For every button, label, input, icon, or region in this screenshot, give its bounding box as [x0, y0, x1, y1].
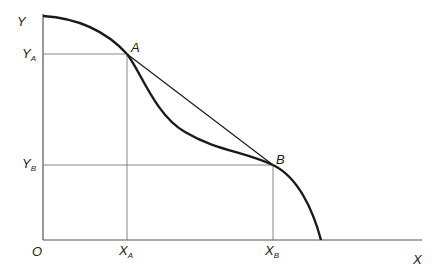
x-axis-label: X: [412, 252, 423, 267]
tick-y-a: YA: [22, 46, 36, 63]
tick-x-a-sub: A: [127, 251, 133, 260]
tick-x-b-sub: B: [274, 251, 280, 260]
origin-label: O: [32, 244, 42, 259]
tick-y-a-sub: A: [30, 54, 36, 63]
tick-y-b-sub: B: [31, 164, 37, 173]
curve-lower: [273, 165, 321, 240]
curve-upper: [43, 16, 127, 54]
tick-x-b: XB: [264, 243, 280, 260]
tick-y-b: YB: [22, 156, 37, 173]
tick-x-a: XA: [118, 243, 133, 260]
point-a-label: A: [130, 40, 140, 55]
point-b-label: B: [276, 152, 285, 167]
diagram: Y X O A B YA YB XA XB: [0, 0, 442, 274]
chord-ab: [127, 54, 273, 165]
y-axis-label: Y: [17, 14, 27, 29]
